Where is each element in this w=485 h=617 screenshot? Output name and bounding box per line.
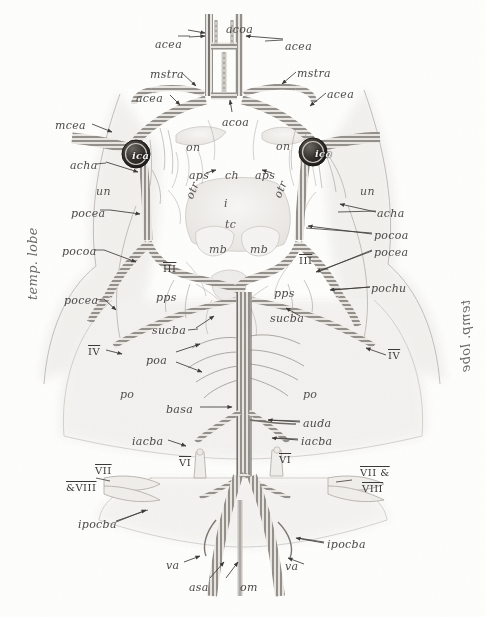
label-pocea-r: pocea — [374, 247, 408, 258]
label-ch: ch — [225, 170, 239, 181]
label-acoa-mid: acoa — [222, 117, 249, 128]
label-roman-iv-r: IV — [388, 351, 400, 361]
label-iacba-l: iacba — [132, 436, 163, 447]
label-om: om — [240, 582, 258, 593]
label-i: i — [224, 198, 228, 209]
label-ica-l: ica — [132, 151, 149, 161]
label-auda: auda — [303, 418, 331, 429]
label-roman-iii-r: III — [299, 256, 312, 266]
label-acea-mid-r: acea — [327, 89, 354, 100]
label-sucba-r: sucba — [270, 313, 304, 324]
label-aps-r: aps — [255, 170, 275, 181]
label-pocoa-r: pocoa — [374, 230, 409, 241]
label-pochu-r: pochu — [371, 283, 407, 294]
anatomical-figure: acoaaceaaceamstramstraaceaaceaacoamceaic… — [0, 0, 485, 617]
label-roman-vi-r: VI — [279, 455, 291, 465]
label-roman-vi-l: VI — [179, 458, 191, 468]
label-roman-vii-l: VII — [95, 466, 112, 476]
label-mcea-l: mcea — [55, 120, 86, 131]
circle-of-willis-drawing — [0, 0, 485, 617]
label-sucba-l: sucba — [152, 325, 186, 336]
label-tc: tc — [225, 219, 236, 230]
label-poa: poa — [146, 355, 167, 366]
label-ica-r: ica — [315, 149, 332, 159]
label-on-l: on — [186, 142, 200, 153]
label-acea-mid-l: acea — [136, 93, 163, 104]
label-temp-lobe-right: temp. lobe — [459, 300, 472, 373]
label-mstra-l: mstra — [150, 69, 184, 80]
label-acha-r: acha — [377, 208, 405, 219]
label-mb-l: mb — [209, 244, 227, 255]
label-temp-lobe-left: temp. lobe — [26, 227, 39, 300]
label-iacba-r: iacba — [301, 436, 332, 447]
label-on-r: on — [276, 141, 290, 152]
label-aps-l: aps — [189, 170, 209, 181]
label-mstra-r: mstra — [297, 68, 331, 79]
label-un-l: un — [96, 186, 111, 197]
label-roman-viii-l: &VIII — [66, 483, 96, 493]
label-roman-iv-l: IV — [88, 347, 100, 357]
label-roman-viii-r: VIII — [362, 484, 383, 494]
label-pocea-l: pocea — [71, 208, 105, 219]
label-roman-vii-r: VII & — [360, 468, 390, 478]
label-pocoa-l: pocoa — [62, 246, 97, 257]
label-acea-top-r: acea — [285, 41, 312, 52]
label-va-r: va — [285, 561, 298, 572]
label-acha-l: acha — [70, 160, 98, 171]
label-basa: basa — [166, 404, 193, 415]
label-pps-r: pps — [274, 288, 295, 299]
label-ipocba-l: ipocba — [78, 519, 117, 530]
label-po-l: po — [120, 389, 134, 400]
label-acea-top-l: acea — [155, 39, 182, 50]
label-pps-l: pps — [156, 292, 177, 303]
label-pocea-l2: pocea — [64, 295, 98, 306]
label-va-l: va — [166, 560, 179, 571]
label-acoa-top: acoa — [226, 24, 253, 35]
label-un-r: un — [360, 186, 375, 197]
label-po-r: po — [303, 389, 317, 400]
label-mb-r: mb — [250, 244, 268, 255]
label-asa: asa — [189, 582, 209, 593]
label-ipocba-r: ipocba — [327, 539, 366, 550]
label-roman-iii-l: III — [163, 264, 176, 274]
